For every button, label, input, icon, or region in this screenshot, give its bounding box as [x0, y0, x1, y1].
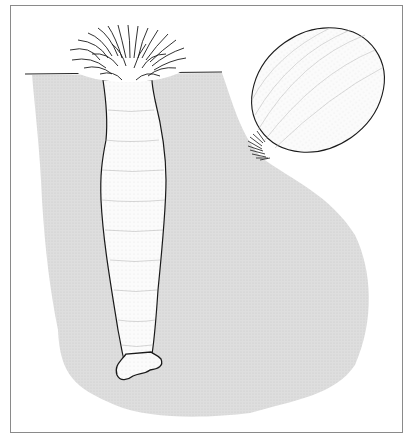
anemone-illustration — [0, 0, 411, 439]
tentacle-crown — [68, 25, 188, 82]
